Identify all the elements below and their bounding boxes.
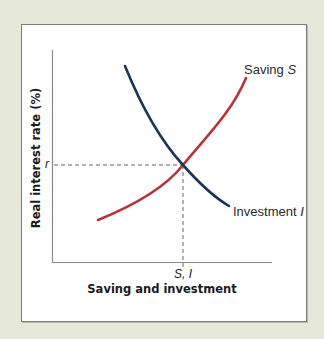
investment-series-label: Investment I bbox=[233, 204, 304, 219]
saving-label-text: Saving bbox=[244, 62, 284, 77]
saving-series-label: Saving S bbox=[244, 62, 296, 77]
saving-label-var: S bbox=[287, 62, 296, 77]
investment-label-var: I bbox=[300, 204, 304, 219]
y-axis-label: Real interest rate (%) bbox=[29, 88, 43, 228]
investment-label-text: Investment bbox=[233, 204, 297, 219]
investment-curve bbox=[125, 66, 229, 206]
x-axis-label: Saving and investment bbox=[87, 282, 236, 296]
saving-curve bbox=[98, 78, 246, 220]
y-tick-label-r: r bbox=[45, 157, 49, 171]
x-tick-label-si: S, I bbox=[174, 267, 192, 281]
